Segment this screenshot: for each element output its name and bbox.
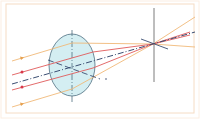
optics-diagram [0, 0, 200, 119]
arrow-red-top-icon [21, 71, 24, 74]
lens-tilt-end-dot [105, 78, 107, 80]
diagram-frame [0, 0, 200, 119]
arrow-red-bottom-icon [21, 86, 24, 89]
